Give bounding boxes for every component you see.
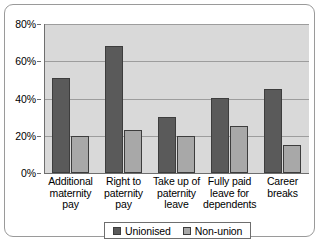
y-tick-label: 80% (15, 18, 36, 30)
x-axis: AdditionalmaternitypayRight topaternityp… (44, 176, 309, 218)
bar (177, 136, 195, 173)
chart-legend: UnionisedNon-union (104, 222, 251, 239)
y-tick-mark (37, 173, 41, 174)
y-tick-label: 0% (21, 167, 36, 179)
legend-entry[interactable]: Non-union (183, 225, 243, 237)
x-category-label-line: pay (44, 199, 97, 211)
x-category-label-line: pay (97, 199, 150, 211)
bar (283, 145, 301, 173)
x-category-label-line: Take up of (150, 176, 203, 188)
x-category-label-line: Career (256, 176, 309, 188)
legend-label: Unionised (125, 225, 171, 237)
x-category-label: Right topaternitypay (97, 176, 150, 211)
x-category-label-line: dependents (203, 199, 256, 211)
x-category-label-line: Additional (44, 176, 97, 188)
bar (71, 136, 89, 173)
legend-swatch-icon (183, 227, 191, 235)
y-tick-label: 60% (15, 55, 36, 67)
bar (230, 126, 248, 173)
bar (124, 130, 142, 173)
bar (52, 78, 70, 173)
legend-swatch-icon (113, 227, 121, 235)
legend-entry[interactable]: Unionised (113, 225, 171, 237)
bar (211, 98, 229, 173)
y-tick-label: 20% (15, 130, 36, 142)
y-axis: 0%20%40%60%80% (5, 24, 41, 174)
y-tick-label: 40% (15, 93, 36, 105)
x-category-label-line: leave (150, 199, 203, 211)
x-category-label: Careerbreaks (256, 176, 309, 199)
y-tick-mark (37, 99, 41, 100)
legend-label: Non-union (195, 225, 243, 237)
chart-frame: 0%20%40%60%80% AdditionalmaternitypayRig… (4, 4, 315, 237)
bar (105, 46, 123, 173)
x-category-label: Additionalmaternitypay (44, 176, 97, 211)
bars-layer (44, 24, 309, 174)
y-tick-mark (37, 24, 41, 25)
x-category-label-line: Right to (97, 176, 150, 188)
y-tick-mark (37, 61, 41, 62)
y-tick-mark (37, 136, 41, 137)
bar (158, 117, 176, 173)
bar (264, 89, 282, 173)
x-category-label-line: Fully paid (203, 176, 256, 188)
x-category-label: Take up ofpaternityleave (150, 176, 203, 211)
x-category-label-line: breaks (256, 188, 309, 200)
x-category-label: Fully paidleave fordependents (203, 176, 256, 211)
